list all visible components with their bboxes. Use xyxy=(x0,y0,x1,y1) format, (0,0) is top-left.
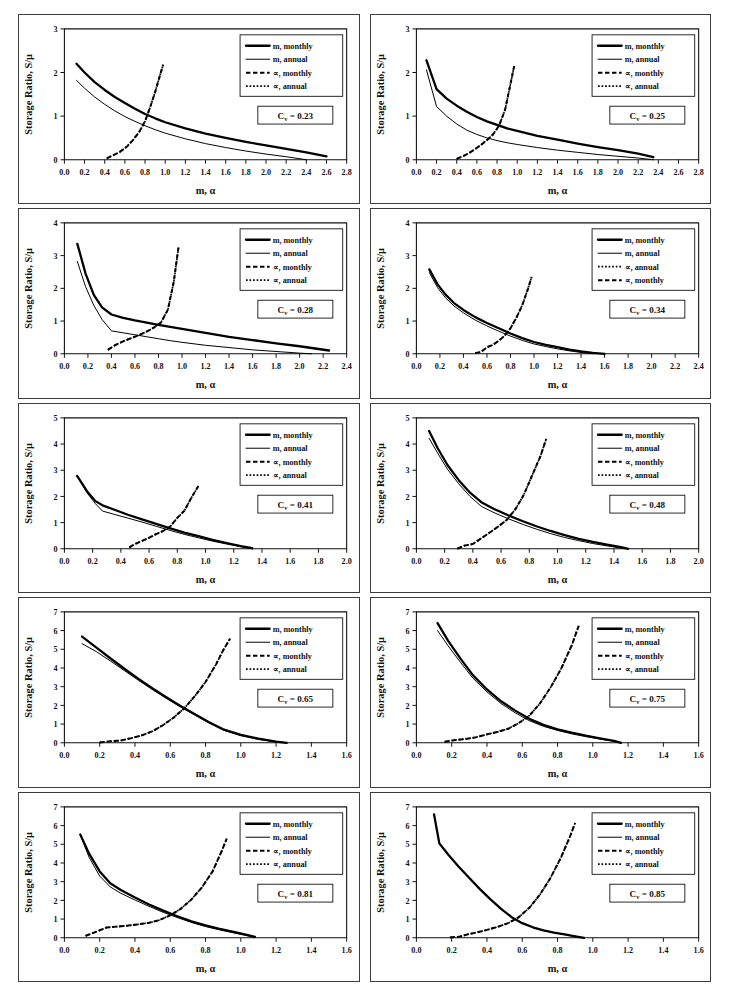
x-tick-label: 2.8 xyxy=(342,168,352,177)
x-tick-label: 0.4 xyxy=(116,556,126,565)
x-tick-label: 0.2 xyxy=(446,751,456,760)
legend-label-a-monthly: ∝, monthly xyxy=(273,652,313,661)
legend-label-m-annual: m, annual xyxy=(273,639,309,648)
x-tick-label: 0.6 xyxy=(144,556,154,565)
legend-label-m-monthly: m, monthly xyxy=(273,42,314,51)
y-axis-title: Storage Ratio, S/µ xyxy=(374,54,385,135)
x-tick-label: 0.4 xyxy=(467,556,477,565)
y-tick-label: 2 xyxy=(405,896,409,905)
legend-label-a-annual: ∝, annual xyxy=(624,263,659,272)
x-tick-label: 0.8 xyxy=(153,362,163,371)
y-tick-label: 3 xyxy=(53,25,57,34)
x-tick-label: 1.6 xyxy=(342,945,352,954)
y-tick-label: 3 xyxy=(405,877,409,886)
x-tick-label: 1.4 xyxy=(608,556,618,565)
cv-label: Cv = 0.48 xyxy=(629,499,665,511)
chart-0.65: 0.00.20.40.60.81.01.21.41.601234567m, αS… xyxy=(19,598,359,786)
cv-label: Cv = 0.25 xyxy=(629,111,665,123)
chart-panel: 0.00.20.40.60.81.01.21.41.61.82.02.22.42… xyxy=(18,14,360,204)
y-tick-label: 1 xyxy=(405,519,409,528)
y-tick-label: 5 xyxy=(53,646,57,655)
x-tick-label: 2.2 xyxy=(318,362,328,371)
chart-0.28: 0.00.20.40.60.81.01.21.41.61.82.02.22.40… xyxy=(19,209,359,397)
y-tick-label: 5 xyxy=(405,414,409,423)
x-tick-label: 1.2 xyxy=(532,168,542,177)
x-tick-label: 1.2 xyxy=(552,362,562,371)
y-tick-label: 2 xyxy=(53,69,57,78)
x-axis-title: m, α xyxy=(196,380,216,391)
x-tick-label: 0.0 xyxy=(411,556,421,565)
x-tick-label: 0.4 xyxy=(100,168,110,177)
x-tick-label: 0.8 xyxy=(491,168,501,177)
y-tick-label: 0 xyxy=(405,739,409,748)
x-tick-label: 0.2 xyxy=(439,556,449,565)
legend-label-a-annual: ∝, annual xyxy=(624,471,659,480)
y-axis-title: Storage Ratio, S/µ xyxy=(23,248,34,329)
x-tick-label: 0.4 xyxy=(481,751,491,760)
x-tick-label: 0.4 xyxy=(451,168,461,177)
chart-panel: 0.00.20.40.60.81.01.21.41.61.82.02.22.40… xyxy=(370,208,712,398)
x-tick-label: 1.0 xyxy=(200,556,210,565)
series-line xyxy=(456,66,513,159)
y-tick-label: 2 xyxy=(53,896,57,905)
legend-label-m-monthly: m, monthly xyxy=(273,819,314,828)
x-tick-label: 1.2 xyxy=(623,945,633,954)
y-tick-label: 2 xyxy=(405,69,409,78)
x-tick-label: 2.8 xyxy=(693,168,703,177)
x-tick-label: 2.2 xyxy=(633,168,643,177)
series-line xyxy=(108,248,179,350)
y-tick-label: 4 xyxy=(53,664,57,673)
legend-label-m-monthly: m, monthly xyxy=(273,625,314,634)
series-line xyxy=(100,639,231,743)
y-tick-label: 7 xyxy=(53,608,57,617)
series-line xyxy=(444,626,578,742)
x-tick-label: 1.4 xyxy=(658,945,668,954)
chart-0.23: 0.00.20.40.60.81.01.21.41.61.82.02.22.42… xyxy=(19,15,359,203)
x-tick-label: 1.0 xyxy=(587,945,597,954)
x-tick-label: 0.0 xyxy=(411,751,421,760)
y-tick-label: 0 xyxy=(53,350,57,359)
figure-panel-grid: 0.00.20.40.60.81.01.21.41.61.82.02.22.42… xyxy=(0,0,729,996)
legend-label-m-monthly: m, monthly xyxy=(273,431,314,440)
x-tick-label: 0.6 xyxy=(517,945,527,954)
series-line xyxy=(434,814,584,937)
chart-panel: 0.00.20.40.60.81.01.21.41.61.82.02.22.40… xyxy=(18,208,360,398)
x-tick-label: 0.6 xyxy=(496,556,506,565)
x-tick-label: 0.4 xyxy=(481,945,491,954)
x-axis-title: m, α xyxy=(196,185,216,196)
legend-label-m-monthly: m, monthly xyxy=(624,819,665,828)
x-tick-label: 0.8 xyxy=(552,751,562,760)
x-tick-label: 0.2 xyxy=(446,945,456,954)
x-tick-label: 0.0 xyxy=(59,362,69,371)
y-tick-label: 7 xyxy=(405,608,409,617)
y-tick-label: 5 xyxy=(53,414,57,423)
x-tick-label: 2.0 xyxy=(693,556,703,565)
y-tick-label: 4 xyxy=(405,440,409,449)
y-tick-label: 1 xyxy=(53,318,57,327)
x-tick-label: 0.0 xyxy=(59,556,69,565)
x-tick-label: 1.2 xyxy=(271,751,281,760)
x-tick-label: 0.4 xyxy=(130,751,140,760)
y-tick-label: 0 xyxy=(53,934,57,943)
x-tick-label: 0.8 xyxy=(200,945,210,954)
x-tick-label: 2.6 xyxy=(673,168,683,177)
y-tick-label: 0 xyxy=(405,545,409,554)
y-axis-title: Storage Ratio, S/µ xyxy=(23,637,34,718)
y-tick-label: 1 xyxy=(405,318,409,327)
legend-label-m-annual: m, annual xyxy=(273,55,309,64)
y-tick-label: 4 xyxy=(405,664,409,673)
legend-label-m-monthly: m, monthly xyxy=(624,625,665,634)
y-tick-label: 5 xyxy=(405,646,409,655)
y-axis-title: Storage Ratio, S/µ xyxy=(23,54,34,135)
x-tick-label: 1.6 xyxy=(637,556,647,565)
y-tick-label: 0 xyxy=(53,545,57,554)
chart-0.25: 0.00.20.40.60.81.01.21.41.61.82.02.22.42… xyxy=(371,15,711,203)
x-tick-label: 2.0 xyxy=(342,556,352,565)
y-tick-label: 6 xyxy=(53,821,57,830)
y-tick-label: 4 xyxy=(53,859,57,868)
x-tick-label: 0.0 xyxy=(411,945,421,954)
x-tick-label: 0.0 xyxy=(411,168,421,177)
series-line xyxy=(429,273,592,354)
cv-label: Cv = 0.85 xyxy=(629,888,665,900)
x-tick-label: 0.2 xyxy=(434,362,444,371)
